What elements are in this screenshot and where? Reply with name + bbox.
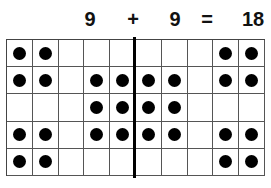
grid-cell: [239, 149, 265, 176]
grid-cell: [213, 122, 239, 149]
grid-cell: [136, 67, 162, 94]
grid-cell: [59, 149, 85, 176]
dot-icon: [219, 128, 232, 141]
sum: 18: [242, 9, 264, 29]
center-divider: [133, 37, 136, 178]
grid-cell: [188, 40, 214, 67]
dot-icon: [13, 74, 26, 87]
dot-icon: [219, 74, 232, 87]
grid-cell: [59, 122, 85, 149]
grid-cell: [33, 149, 59, 176]
grid-cell: [84, 40, 110, 67]
dot-icon: [142, 128, 155, 141]
addend-right: 9: [169, 9, 180, 29]
dot-icon: [13, 47, 26, 60]
grid-cell: [33, 122, 59, 149]
grid-cell: [7, 122, 33, 149]
grid-cell: [162, 40, 188, 67]
grid-cell: [213, 67, 239, 94]
grid-cell: [7, 149, 33, 176]
grid-cell: [84, 149, 110, 176]
grid-cell: [188, 94, 214, 121]
grid-cell: [136, 122, 162, 149]
dot-icon: [90, 74, 103, 87]
grid-cell: [7, 94, 33, 121]
grid-cell: [59, 40, 85, 67]
grid-cell: [213, 40, 239, 67]
grid-cell: [84, 122, 110, 149]
grid-cell: [213, 94, 239, 121]
grid-cell: [59, 94, 85, 121]
dot-icon: [116, 101, 129, 114]
grid-cell: [33, 40, 59, 67]
addend-left: 9: [84, 9, 95, 29]
grid-cell: [162, 67, 188, 94]
grid-cell: [84, 94, 110, 121]
grid-cell: [7, 40, 33, 67]
grid-cell: [136, 94, 162, 121]
grid-cell: [188, 122, 214, 149]
dot-icon: [116, 128, 129, 141]
grid-cell: [162, 94, 188, 121]
grid-cell: [239, 122, 265, 149]
dot-icon: [39, 74, 52, 87]
dot-icon: [90, 101, 103, 114]
dot-icon: [245, 47, 258, 60]
dot-icon: [168, 101, 181, 114]
grid-cell: [188, 67, 214, 94]
dot-icon: [219, 155, 232, 168]
dot-icon: [245, 155, 258, 168]
grid-cell: [239, 40, 265, 67]
dot-icon: [39, 155, 52, 168]
grid-cell: [33, 94, 59, 121]
dot-icon: [142, 74, 155, 87]
grid-cell: [162, 122, 188, 149]
grid-cell: [213, 149, 239, 176]
dot-icon: [245, 74, 258, 87]
dot-icon: [13, 128, 26, 141]
dot-icon: [13, 155, 26, 168]
grid-cell: [162, 149, 188, 176]
grid-cell: [59, 67, 85, 94]
grid-cell: [188, 149, 214, 176]
dot-icon: [39, 128, 52, 141]
grid-cell: [136, 149, 162, 176]
dot-icon: [116, 74, 129, 87]
dot-icon: [168, 128, 181, 141]
dot-icon: [90, 128, 103, 141]
dot-icon: [245, 128, 258, 141]
grid-cell: [84, 67, 110, 94]
dot-icon: [39, 47, 52, 60]
dot-icon: [219, 47, 232, 60]
grid-cell: [136, 40, 162, 67]
grid-cell: [33, 67, 59, 94]
grid-cell: [239, 67, 265, 94]
plus-sign: +: [127, 9, 139, 29]
grid-cell: [239, 94, 265, 121]
dot-icon: [168, 74, 181, 87]
dot-icon: [142, 101, 155, 114]
grid-cell: [7, 67, 33, 94]
equals-sign: =: [201, 9, 213, 29]
